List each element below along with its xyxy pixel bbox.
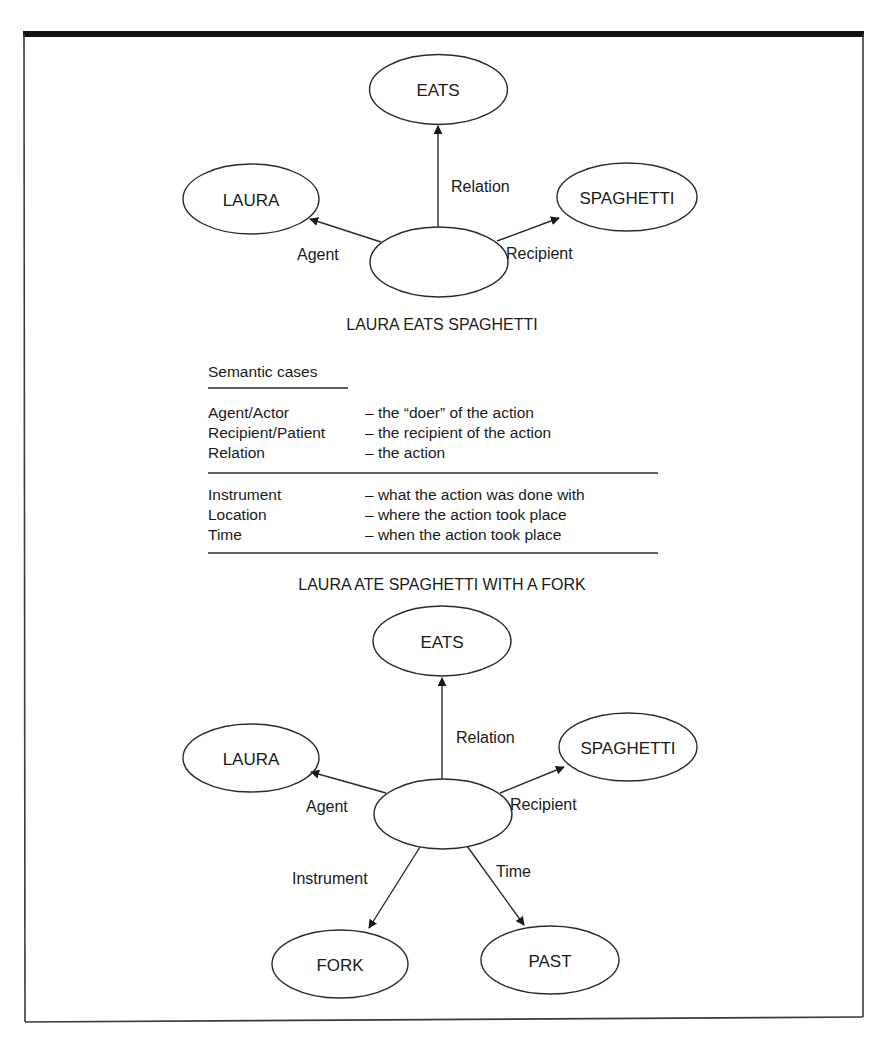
frame-top-bar — [23, 31, 864, 37]
node-center-ellipse — [370, 227, 508, 297]
case-desc-instrument: – what the action was done with — [365, 486, 585, 503]
edge2-recipient-label: Recipient — [510, 796, 577, 813]
edge-agent-arrow — [310, 219, 381, 242]
diagram1-caption: LAURA EATS SPAGHETTI — [346, 316, 537, 333]
case-name-relation: Relation — [208, 444, 265, 461]
frame-bottom-edge — [25, 1017, 863, 1022]
case-name-instrument: Instrument — [208, 486, 282, 503]
edge2-instrument-arrow — [369, 847, 420, 928]
node2-instrument-label: FORK — [316, 956, 364, 975]
node2-center-ellipse — [374, 779, 512, 849]
semantic-cases-table: Semantic cases Agent/Actor – the “doer” … — [208, 363, 658, 553]
diagram2-caption: LAURA ATE SPAGHETTI WITH A FORK — [298, 576, 586, 593]
edge2-agent-label: Agent — [306, 798, 348, 815]
frame-left-edge — [24, 34, 25, 1022]
edge2-time-label: Time — [496, 863, 531, 880]
edge-recipient-label: Recipient — [506, 245, 573, 262]
node-relation-label: EATS — [416, 81, 459, 100]
edge2-agent-arrow — [311, 772, 386, 793]
node2-agent-label: LAURA — [223, 750, 280, 769]
edge2-recipient-arrow — [500, 767, 564, 793]
edge2-time-arrow — [467, 846, 524, 925]
edge-recipient-arrow — [497, 218, 559, 241]
semantic-cases-heading: Semantic cases — [208, 363, 318, 380]
semantic-case-figure: EATS LAURA SPAGHETTI Relation Agent Reci… — [0, 0, 889, 1049]
edge2-instrument-label: Instrument — [292, 870, 368, 887]
edge-agent-label: Agent — [297, 246, 339, 263]
node2-relation-label: EATS — [420, 633, 463, 652]
node2-recipient-label: SPAGHETTI — [580, 739, 675, 758]
case-desc-time: – when the action took place — [365, 526, 561, 543]
case-desc-recipient: – the recipient of the action — [365, 424, 551, 441]
node-agent-label: LAURA — [223, 191, 280, 210]
case-name-agent: Agent/Actor — [208, 404, 289, 421]
case-name-recipient: Recipient/Patient — [208, 424, 326, 441]
edge2-relation-label: Relation — [456, 729, 515, 746]
case-desc-agent: – the “doer” of the action — [365, 404, 534, 421]
diagram-laura-ate-spaghetti-with-fork — [183, 606, 697, 998]
diagram2-labels: EATS LAURA SPAGHETTI FORK PAST Relation … — [223, 633, 676, 975]
node2-time-label: PAST — [528, 952, 571, 971]
case-name-location: Location — [208, 506, 267, 523]
diagram1-labels: EATS LAURA SPAGHETTI Relation Agent Reci… — [223, 81, 675, 334]
case-desc-relation: – the action — [365, 444, 445, 461]
edge-relation-label: Relation — [451, 178, 510, 195]
case-name-time: Time — [208, 526, 242, 543]
case-desc-location: – where the action took place — [365, 506, 567, 523]
node-recipient-label: SPAGHETTI — [579, 189, 674, 208]
